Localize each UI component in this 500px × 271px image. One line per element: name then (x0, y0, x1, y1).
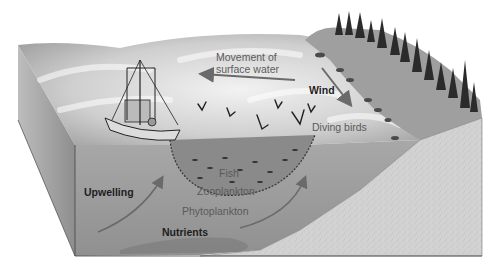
movement-label-line1: Movement of (216, 51, 279, 63)
zooplankton-label: Zooplankton (197, 186, 255, 197)
wind-label: Wind (309, 85, 335, 96)
nutrients-label: Nutrients (162, 227, 208, 238)
movement-label: Movement of surface water (216, 51, 279, 75)
fish-label: Fish (219, 168, 239, 179)
upwelling-diagram (0, 0, 500, 271)
movement-label-line2: surface water (216, 63, 279, 75)
diving-birds-label: Diving birds (312, 122, 367, 133)
upwelling-label: Upwelling (84, 187, 134, 198)
phytoplankton-label: Phytoplankton (182, 206, 249, 217)
